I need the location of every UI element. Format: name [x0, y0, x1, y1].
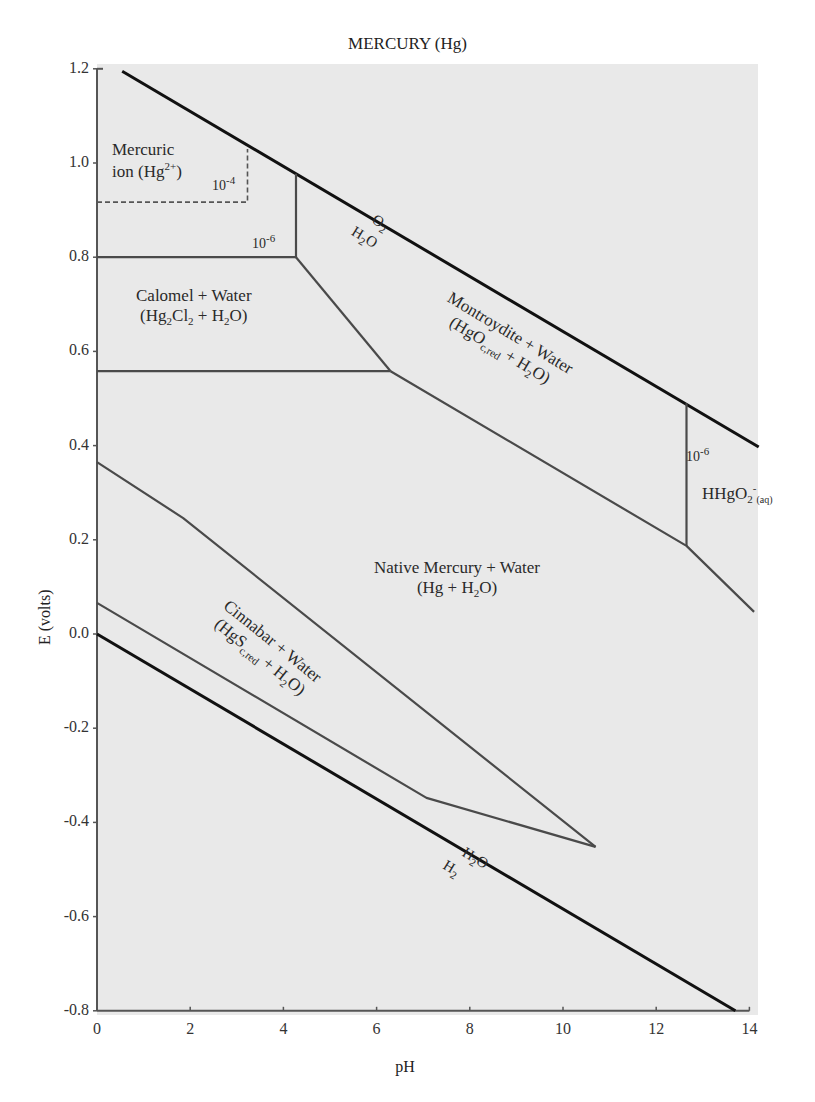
x-tick-label: 4 [263, 1020, 303, 1038]
x-tick-label: 12 [636, 1020, 676, 1038]
y-tick-label: 1.2 [45, 59, 89, 77]
x-tick-label: 14 [729, 1020, 769, 1038]
y-tick-label: -0.4 [45, 812, 89, 830]
x-tick-label: 0 [77, 1020, 117, 1038]
label-native-mercury: Native Mercury + Water (Hg + H2O) [374, 558, 540, 601]
x-tick-label: 6 [357, 1020, 397, 1038]
chart-title: MERCURY (Hg) [0, 34, 815, 54]
x-tick-label: 2 [170, 1020, 210, 1038]
x-tick-label: 8 [450, 1020, 490, 1038]
label-calomel: Calomel + Water (Hg2Cl2 + H2O) [136, 286, 252, 329]
label-conc-1e-4: 10-4 [212, 174, 235, 194]
label-conc-1e-6-right: 10-6 [686, 445, 709, 465]
label-mercuric-ion: Mercuric ion (Hg2+) [112, 140, 182, 182]
y-tick-label: -0.8 [45, 1001, 89, 1019]
x-axis-label: pH [385, 1058, 425, 1076]
y-tick-label: 0.6 [45, 341, 89, 359]
y-axis-label: E (volts) [36, 589, 54, 645]
y-tick-label: 0.4 [45, 436, 89, 454]
y-tick-label: 1.0 [45, 153, 89, 171]
label-conc-1e-6-left: 10-6 [252, 232, 275, 252]
y-tick-label: -0.6 [45, 907, 89, 925]
x-tick-label: 10 [543, 1020, 583, 1038]
y-tick-label: 0.8 [45, 247, 89, 265]
plot-area [97, 64, 758, 1015]
label-hhgo2-aq: HHgO2-(aq) [702, 482, 773, 506]
y-tick-label: -0.2 [45, 718, 89, 736]
y-tick-label: 0.2 [45, 530, 89, 548]
